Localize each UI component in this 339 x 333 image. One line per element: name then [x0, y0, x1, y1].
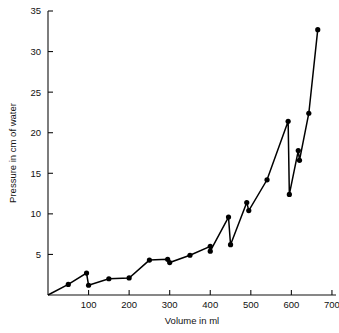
x-axis-title: Volume in ml	[165, 315, 219, 326]
y-axis-ticks	[48, 11, 53, 254]
x-tick-label-100: 100	[81, 299, 97, 310]
data-point	[127, 275, 132, 280]
x-tick-label-200: 200	[121, 299, 137, 310]
x-axis-ticks	[89, 290, 332, 295]
y-tick-label-20: 20	[30, 127, 41, 138]
x-tick-label-700: 700	[324, 299, 339, 310]
data-point	[106, 276, 111, 281]
data-point	[147, 258, 152, 263]
y-tick-label-35: 35	[30, 5, 41, 16]
data-point	[226, 215, 231, 220]
y-tick-label-30: 30	[30, 46, 41, 57]
data-point	[208, 244, 213, 249]
data-point	[264, 177, 269, 182]
x-tick-label-600: 600	[283, 299, 299, 310]
data-point	[246, 208, 251, 213]
y-tick-label-25: 25	[30, 87, 41, 98]
data-point	[208, 249, 213, 254]
data-point	[187, 253, 192, 258]
data-point	[86, 283, 91, 288]
data-point	[84, 270, 89, 275]
x-tick-label-500: 500	[243, 299, 259, 310]
x-tick-label-400: 400	[202, 299, 218, 310]
data-point	[66, 282, 71, 287]
data-point	[297, 158, 302, 163]
x-axis-tick-labels: 100200300400500600700	[81, 299, 339, 310]
data-point	[167, 260, 172, 265]
y-tick-label-5: 5	[36, 249, 41, 260]
y-tick-label-15: 15	[30, 168, 41, 179]
y-tick-label-10: 10	[30, 208, 41, 219]
cystometrogram-figure: 5101520253035 100200300400500600700 Volu…	[0, 0, 339, 333]
y-axis-tick-labels: 5101520253035	[30, 5, 41, 259]
data-series-group	[48, 27, 320, 295]
data-point	[306, 111, 311, 116]
data-point	[315, 27, 320, 32]
data-point	[287, 192, 292, 197]
pressure-volume-markers	[66, 27, 321, 288]
y-axis-group: 5101520253035	[30, 5, 53, 295]
pressure-volume-line	[48, 30, 318, 295]
data-point	[296, 148, 301, 153]
data-point	[286, 119, 291, 124]
x-tick-label-300: 300	[162, 299, 178, 310]
data-point	[244, 200, 249, 205]
y-axis-title: Pressure in cm of water	[7, 103, 18, 203]
data-point	[228, 242, 233, 247]
x-axis-group: 100200300400500600700	[48, 290, 339, 310]
chart-canvas: 5101520253035 100200300400500600700 Volu…	[0, 0, 339, 333]
